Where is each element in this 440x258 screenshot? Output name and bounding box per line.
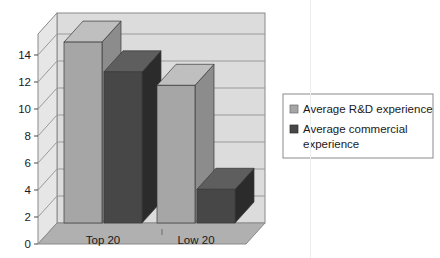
floor	[38, 223, 265, 244]
bar-0-s2	[104, 51, 161, 223]
legend-swatch-series1	[290, 105, 298, 113]
x-axis-label: Low 20	[177, 234, 214, 246]
y-axis-label: 0	[25, 238, 31, 250]
left-side-wall	[38, 13, 57, 244]
bar-chart-3d: 02468101214 Top 20Low 20 Average R&D exp…	[0, 0, 440, 258]
y-axis-labels: 02468101214	[18, 49, 31, 250]
y-axis-label: 8	[25, 130, 31, 142]
y-axis-label: 14	[18, 49, 31, 61]
y-axis-label: 2	[25, 211, 31, 223]
legend-label-series2-line2: experience	[303, 138, 359, 150]
y-axis-label: 10	[18, 103, 31, 115]
scan-artifact-line	[310, 0, 311, 258]
y-axis-ticks	[34, 55, 38, 244]
legend-swatch-series2	[290, 125, 298, 133]
chart-container: 02468101214 Top 20Low 20 Average R&D exp…	[0, 0, 440, 258]
x-axis-label: Top 20	[86, 234, 121, 246]
y-axis-label: 6	[25, 157, 31, 169]
legend-label-series2-line1: Average commercial	[303, 123, 408, 135]
y-axis-label: 12	[18, 76, 31, 88]
legend-label-series1: Average R&D experience	[303, 103, 433, 115]
y-axis-label: 4	[25, 184, 32, 196]
legend: Average R&D experience Average commercia…	[283, 94, 433, 158]
